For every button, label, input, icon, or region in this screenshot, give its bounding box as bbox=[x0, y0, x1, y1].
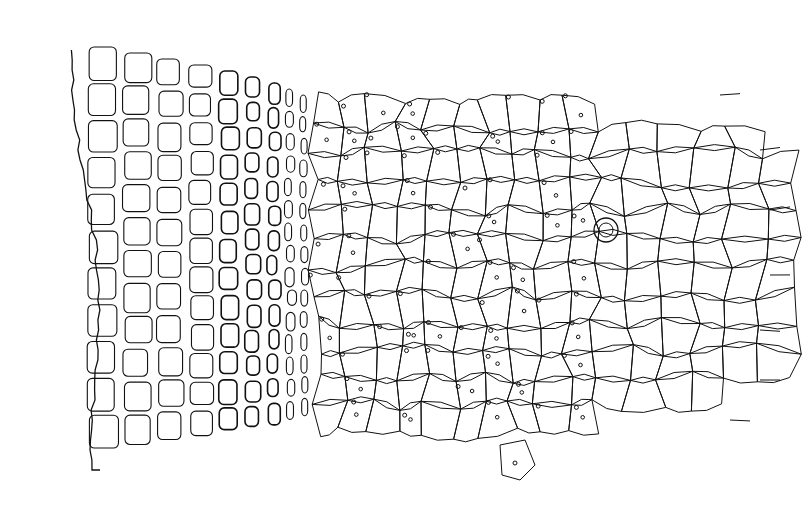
cell-drawing bbox=[0, 0, 804, 507]
tissue-section-diagram bbox=[0, 0, 804, 507]
